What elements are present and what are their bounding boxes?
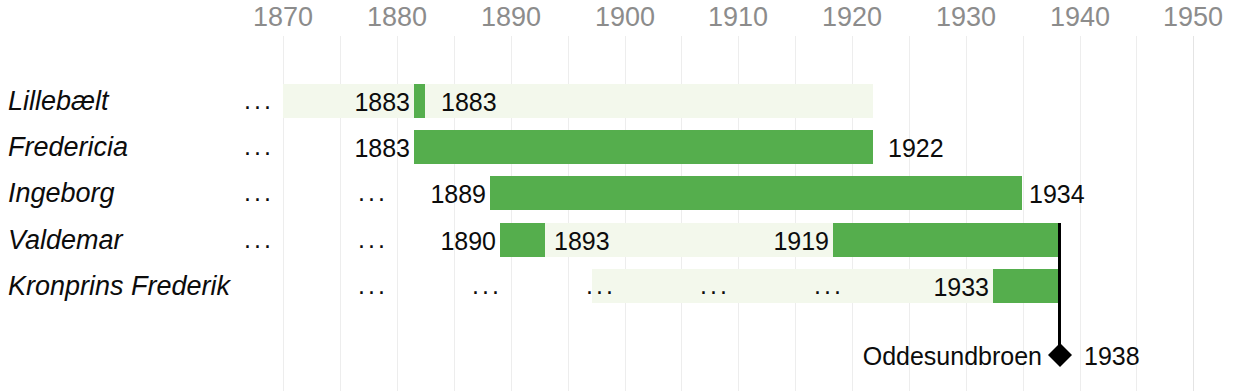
row-end-value: 1883 <box>441 90 497 115</box>
axis-tick-1930: 1930 <box>936 4 996 31</box>
row-start-value: 1933 <box>933 275 989 300</box>
timeline-bar <box>414 84 425 118</box>
row-dots: ... <box>358 180 388 205</box>
timeline-bar <box>500 223 545 257</box>
row-start-value: 1890 <box>440 229 496 254</box>
row-mid-value: 1893 <box>554 229 610 254</box>
row-label-fredericia: Fredericia <box>8 134 128 161</box>
axis-tick-1950: 1950 <box>1163 4 1223 31</box>
row-dots: ... <box>244 227 274 252</box>
row-segment2-start-value: 1919 <box>773 229 829 254</box>
axis-tick-1890: 1890 <box>481 4 541 31</box>
row-label-valdemar: Valdemar <box>8 227 123 254</box>
row-dots: ... <box>358 273 388 298</box>
row-dots: ... <box>244 180 274 205</box>
timeline-bar <box>414 130 873 164</box>
row-end-value: 1922 <box>888 136 944 161</box>
row-start-value: 1889 <box>430 182 486 207</box>
row-dots: ... <box>244 134 274 159</box>
row-start-value: 1883 <box>354 136 410 161</box>
axis-tick-1880: 1880 <box>367 4 427 31</box>
axis-tick-1940: 1940 <box>1050 4 1110 31</box>
timeline-row: Valdemar ... ... 1890 1893 1919 <box>0 221 1233 261</box>
row-start-value: 1883 <box>354 90 410 115</box>
row-dots: ... <box>358 227 388 252</box>
axis-tick-1910: 1910 <box>708 4 768 31</box>
row-label-ingeborg: Ingeborg <box>8 180 115 207</box>
event-marker-line <box>1058 223 1061 353</box>
timeline-bar <box>490 176 1022 210</box>
timeline-chart: 1870 1880 1890 1900 1910 1920 1930 1940 … <box>0 0 1233 391</box>
row-dots: ... <box>586 273 616 298</box>
timeline-row: Ingeborg ... ... 1889 1934 <box>0 174 1233 214</box>
row-label-kronprins-frederik: Kronprins Frederik <box>8 273 230 300</box>
axis-tick-1870: 1870 <box>253 4 313 31</box>
row-dots: ... <box>814 273 844 298</box>
row-label-lillebaelt: Lillebælt <box>8 88 109 115</box>
event-year: 1938 <box>1084 344 1140 369</box>
row-dots: ... <box>244 88 274 113</box>
axis-tick-1920: 1920 <box>822 4 882 31</box>
timeline-row: Kronprins Frederik ... ... ... ... ... 1… <box>0 267 1233 307</box>
timeline-bar <box>833 223 1060 257</box>
axis-tick-1900: 1900 <box>595 4 655 31</box>
row-dots: ... <box>472 273 502 298</box>
diamond-marker-icon <box>1048 343 1072 367</box>
row-dots: ... <box>700 273 730 298</box>
timeline-bar <box>993 269 1060 303</box>
timeline-row: Lillebælt ... 1883 1883 <box>0 82 1233 122</box>
event-label: Oddesundbroen <box>863 344 1042 369</box>
timeline-row: Fredericia ... 1883 1922 <box>0 128 1233 168</box>
row-end-value: 1934 <box>1029 182 1085 207</box>
